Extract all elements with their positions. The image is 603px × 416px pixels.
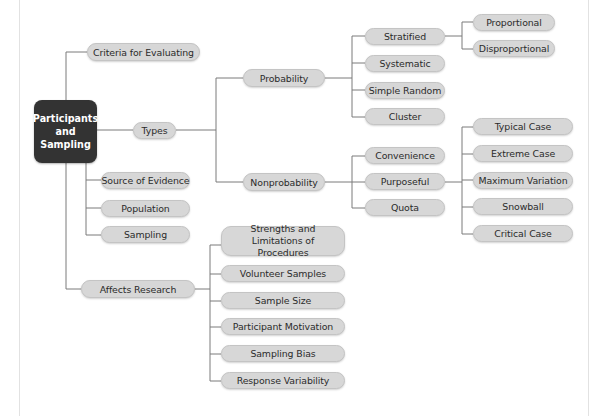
node-typical-case[interactable]: Typical Case <box>473 118 573 135</box>
connector-types-split <box>176 78 243 182</box>
node-extreme-case[interactable]: Extreme Case <box>473 145 573 162</box>
connector-stratified <box>445 22 473 49</box>
node-systematic[interactable]: Systematic <box>365 55 445 72</box>
node-proportional[interactable]: Proportional <box>473 14 555 31</box>
node-sampling[interactable]: Sampling <box>101 226 190 243</box>
root-label-line-2: and <box>33 125 98 138</box>
node-disproportional[interactable]: Disproportional <box>473 40 555 57</box>
node-participant-motivation[interactable]: Participant Motivation <box>221 318 345 335</box>
connector-root-affects <box>66 163 81 289</box>
node-cluster[interactable]: Cluster <box>365 108 445 125</box>
node-criteria-for-evaluating[interactable]: Criteria for Evaluating <box>87 43 200 61</box>
node-types[interactable]: Types <box>133 122 176 139</box>
connector-purposeful <box>445 127 473 234</box>
root-node-participants-and-sampling[interactable]: Participants and Sampling <box>34 100 97 163</box>
node-sample-size[interactable]: Sample Size <box>221 292 345 309</box>
node-population[interactable]: Population <box>101 200 190 217</box>
node-response-variability[interactable]: Response Variability <box>221 372 345 389</box>
node-affects-research[interactable]: Affects Research <box>81 280 195 298</box>
node-strengths-and-limitations[interactable]: Strengths and Limitations of Procedures <box>221 226 345 256</box>
node-source-of-evidence[interactable]: Source of Evidence <box>101 172 190 189</box>
node-simple-random[interactable]: Simple Random <box>365 82 445 99</box>
connector-probability <box>325 36 365 117</box>
connector-nonprobability <box>325 156 365 208</box>
node-probability[interactable]: Probability <box>243 69 325 87</box>
connector-root-criteria <box>66 52 87 100</box>
node-sampling-bias[interactable]: Sampling Bias <box>221 345 345 362</box>
root-label-line-1: Participants <box>33 112 98 125</box>
node-critical-case[interactable]: Critical Case <box>473 225 573 242</box>
node-nonprobability[interactable]: Nonprobability <box>243 173 325 191</box>
node-maximum-variation[interactable]: Maximum Variation <box>473 172 573 189</box>
node-stratified[interactable]: Stratified <box>365 28 445 45</box>
connector-root-secondary <box>86 163 101 235</box>
node-quota[interactable]: Quota <box>365 199 445 216</box>
node-purposeful[interactable]: Purposeful <box>365 173 445 190</box>
node-volunteer-samples[interactable]: Volunteer Samples <box>221 265 345 282</box>
node-snowball[interactable]: Snowball <box>473 198 573 215</box>
root-label-line-3: Sampling <box>33 138 98 151</box>
connector-affects <box>195 245 221 381</box>
node-convenience[interactable]: Convenience <box>365 147 445 164</box>
